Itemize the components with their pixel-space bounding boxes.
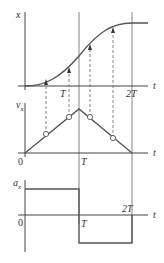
acceleration-graph: ax 0 t T 2T	[13, 177, 156, 252]
tangent-guides	[46, 30, 113, 138]
kinematics-diagram: x t T 2T vx 0 t T	[0, 0, 164, 263]
position-graph: x t T 2T	[15, 9, 156, 138]
t-label: t	[153, 147, 156, 158]
t-label: t	[153, 209, 156, 220]
tick-T: T	[60, 88, 67, 99]
position-curve	[25, 23, 148, 86]
origin-label: 0	[18, 217, 23, 228]
ax-label: ax	[13, 177, 22, 191]
tick-T: T	[81, 218, 88, 229]
x-label: x	[15, 9, 21, 20]
sample-points	[43, 114, 115, 140]
t-label: t	[153, 80, 156, 91]
origin-label: 0	[18, 156, 23, 167]
tick-2T: 2T	[122, 203, 134, 214]
velocity-graph: vx 0 t T	[16, 99, 156, 167]
tick-2T: 2T	[126, 88, 138, 99]
tick-T: T	[81, 156, 88, 167]
vx-label: vx	[16, 99, 24, 113]
velocity-line	[25, 109, 132, 153]
acceleration-line	[25, 189, 132, 243]
